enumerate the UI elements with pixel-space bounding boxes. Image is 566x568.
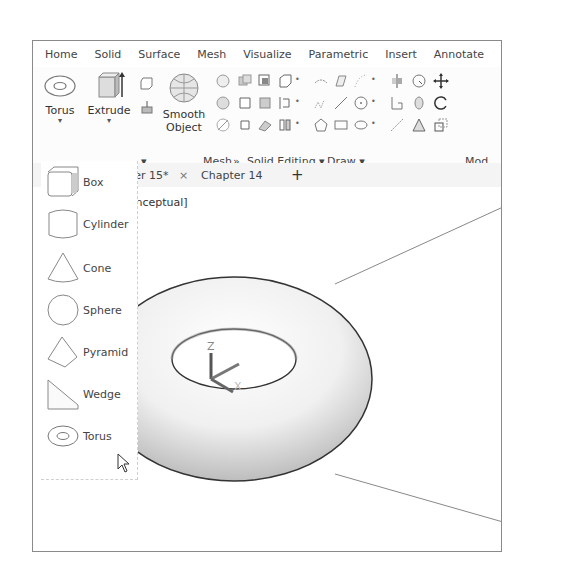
new-tab-button[interactable]: + bbox=[291, 166, 304, 184]
interfere-icon[interactable] bbox=[237, 95, 253, 111]
extrude-icon bbox=[91, 71, 127, 101]
menu-item-cone[interactable]: Cone bbox=[45, 249, 135, 287]
wedge-icon bbox=[45, 377, 81, 411]
subtract-icon[interactable] bbox=[257, 73, 273, 89]
ellipse-dropdown-arrow[interactable]: • bbox=[371, 119, 376, 128]
tab-solid[interactable]: Solid bbox=[94, 48, 121, 61]
slice-icon[interactable] bbox=[277, 73, 293, 89]
helix-icon[interactable] bbox=[313, 95, 329, 111]
extract-edges-icon[interactable] bbox=[277, 117, 293, 133]
rectangle-icon[interactable] bbox=[333, 117, 349, 133]
torus-icon bbox=[42, 71, 78, 101]
sphere-icon bbox=[45, 293, 81, 327]
extrude-dropdown-arrow[interactable]: ▾ bbox=[85, 117, 133, 125]
tab-home[interactable]: Home bbox=[45, 48, 77, 61]
torus-dropdown-arrow[interactable]: ▾ bbox=[39, 117, 81, 125]
menu-item-sphere[interactable]: Sphere bbox=[45, 291, 135, 329]
primitives-dropdown-menu: Box Cylinder Cone Sphere Pyramid bbox=[41, 161, 138, 480]
line-icon[interactable] bbox=[333, 95, 349, 111]
menu-item-pyramid[interactable]: Pyramid bbox=[45, 333, 135, 371]
mesh-uncrease-icon[interactable] bbox=[215, 117, 231, 133]
ucs-x-label: X bbox=[234, 380, 242, 393]
sweep-icon[interactable] bbox=[313, 73, 329, 89]
circle-dropdown-arrow[interactable]: • bbox=[371, 97, 376, 106]
menu-item-label: Pyramid bbox=[83, 346, 128, 359]
rotate-icon[interactable] bbox=[433, 95, 449, 111]
shell-icon[interactable] bbox=[257, 95, 273, 111]
menu-item-label: Wedge bbox=[83, 388, 121, 401]
spline-dropdown-arrow[interactable]: • bbox=[371, 75, 376, 84]
autocad-window: Home Solid Surface Mesh Visualize Parame… bbox=[32, 40, 502, 552]
tab-mesh[interactable]: Mesh bbox=[197, 48, 226, 61]
mirror-3d-icon[interactable] bbox=[389, 73, 405, 89]
move-icon[interactable] bbox=[433, 73, 449, 89]
mouse-pointer-icon bbox=[117, 453, 131, 473]
menu-item-label: Torus bbox=[83, 430, 112, 443]
3d-array-icon[interactable] bbox=[411, 95, 427, 111]
smooth-object-button[interactable]: Smooth Object bbox=[159, 71, 209, 134]
union-icon[interactable] bbox=[237, 73, 253, 89]
polygon-icon[interactable] bbox=[313, 117, 329, 133]
tab-surface[interactable]: Surface bbox=[138, 48, 180, 61]
tab-insert[interactable]: Insert bbox=[385, 48, 417, 61]
tab-annotate[interactable]: Annotate bbox=[434, 48, 484, 61]
menu-item-label: Cylinder bbox=[83, 218, 129, 231]
presspull-icon[interactable] bbox=[139, 75, 155, 91]
ucs-z-label: Z bbox=[207, 340, 215, 353]
menu-item-wedge[interactable]: Wedge bbox=[45, 375, 135, 413]
separate-dropdown-arrow[interactable]: • bbox=[295, 97, 300, 106]
menu-item-label: Box bbox=[83, 176, 103, 189]
menu-item-torus[interactable]: Torus bbox=[45, 417, 135, 455]
ribbon-tab-bar: Home Solid Surface Mesh Visualize Parame… bbox=[33, 41, 501, 67]
menu-item-label: Sphere bbox=[83, 304, 122, 317]
cylinder-icon bbox=[45, 207, 81, 241]
spline-icon[interactable] bbox=[353, 73, 369, 89]
torus-icon bbox=[45, 419, 81, 453]
menu-item-label: Cone bbox=[83, 262, 111, 275]
scale-icon[interactable] bbox=[433, 117, 449, 133]
doc-tab-chapter-14[interactable]: Chapter 14 bbox=[201, 169, 262, 182]
align-icon[interactable] bbox=[389, 95, 405, 111]
intersect-icon[interactable] bbox=[237, 117, 253, 133]
fillet-edge-icon[interactable] bbox=[257, 117, 273, 133]
cone-icon bbox=[45, 251, 81, 285]
ellipse-icon[interactable] bbox=[353, 117, 369, 133]
mesh-refine-icon[interactable] bbox=[215, 73, 231, 89]
circle-icon[interactable] bbox=[353, 95, 369, 111]
close-tab-icon[interactable]: × bbox=[179, 169, 188, 182]
smooth-object-icon bbox=[167, 71, 201, 105]
box-icon bbox=[45, 165, 81, 199]
smooth-label-2: Object bbox=[159, 121, 209, 134]
torus-button[interactable]: Torus ▾ bbox=[39, 71, 81, 125]
tab-visualize[interactable]: Visualize bbox=[243, 48, 291, 61]
grid-line bbox=[335, 474, 502, 522]
planar-surface-icon[interactable] bbox=[333, 73, 349, 89]
pyramid-icon bbox=[45, 335, 81, 369]
tab-parametric[interactable]: Parametric bbox=[309, 48, 369, 61]
rotate-3d-icon[interactable] bbox=[411, 73, 427, 89]
mesh-crease-icon[interactable] bbox=[215, 95, 231, 111]
extrude-button[interactable]: Extrude ▾ bbox=[85, 71, 133, 125]
smooth-label-1: Smooth bbox=[159, 108, 209, 121]
menu-item-cylinder[interactable]: Cylinder bbox=[45, 205, 135, 243]
polysolid-icon[interactable] bbox=[139, 99, 155, 115]
separate-icon[interactable] bbox=[277, 95, 293, 111]
section-plane-icon[interactable] bbox=[411, 117, 427, 133]
menu-item-box[interactable]: Box bbox=[45, 163, 135, 201]
3d-scale-icon[interactable] bbox=[389, 117, 405, 133]
extract-dropdown-arrow[interactable]: • bbox=[295, 119, 300, 128]
grid-line bbox=[335, 207, 502, 284]
slice-dropdown-arrow[interactable]: • bbox=[295, 75, 300, 84]
